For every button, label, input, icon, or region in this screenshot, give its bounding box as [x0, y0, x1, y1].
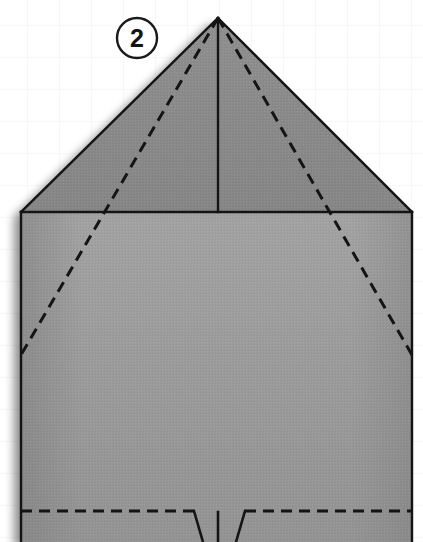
- step-badge-number: 2: [130, 24, 144, 52]
- origami-diagram: 2: [0, 0, 423, 542]
- inner-edge-shading: [21, 18, 412, 542]
- fold-figure: 2: [0, 0, 423, 542]
- step-badge: 2: [117, 18, 157, 58]
